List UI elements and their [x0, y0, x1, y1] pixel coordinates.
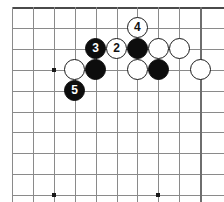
stone-move-2[interactable]: 2 — [106, 38, 127, 59]
stone-black-c6r2[interactable] — [127, 38, 148, 59]
grid-line-horizontal — [12, 28, 224, 29]
board-edge-right — [200, 7, 202, 202]
grid-line-horizontal — [12, 195, 224, 196]
stone-white-c6r3[interactable] — [127, 59, 148, 80]
grid-line-horizontal — [12, 153, 224, 154]
stone-white-c3r3[interactable] — [64, 59, 85, 80]
grid-line-horizontal — [12, 132, 224, 133]
grid-line-vertical — [96, 7, 97, 202]
stone-black-c4r3[interactable] — [85, 59, 106, 80]
grid-line-vertical — [117, 7, 118, 202]
grid-line-vertical — [54, 7, 55, 202]
stone-move-3[interactable]: 3 — [85, 38, 106, 59]
grid-line-vertical — [158, 7, 159, 202]
stone-black-c7r3[interactable] — [148, 59, 169, 80]
star-point — [156, 193, 160, 197]
grid-line-vertical — [33, 7, 34, 202]
stone-white-c9r3[interactable] — [190, 59, 211, 80]
grid-line-vertical — [179, 7, 180, 202]
star-point — [52, 193, 56, 197]
grid-line-vertical — [12, 7, 13, 202]
stone-move-number: 4 — [134, 21, 141, 33]
grid-line-horizontal — [12, 174, 224, 175]
stone-move-number: 3 — [92, 42, 99, 54]
grid-line-horizontal — [12, 112, 224, 113]
goban-grid[interactable]: 4325 — [0, 0, 224, 202]
stone-move-number: 2 — [113, 42, 120, 54]
stone-move-5[interactable]: 5 — [64, 80, 85, 101]
go-board-diagram: 4325 — [0, 0, 224, 202]
stone-white-c7r2[interactable] — [148, 38, 169, 59]
star-point — [52, 68, 56, 72]
grid-line-vertical — [75, 7, 76, 202]
grid-line-horizontal — [12, 91, 224, 92]
board-edge-top — [12, 7, 224, 9]
stone-move-4[interactable]: 4 — [127, 17, 148, 38]
stone-white-c8r2[interactable] — [169, 38, 190, 59]
stone-move-number: 5 — [71, 84, 78, 96]
